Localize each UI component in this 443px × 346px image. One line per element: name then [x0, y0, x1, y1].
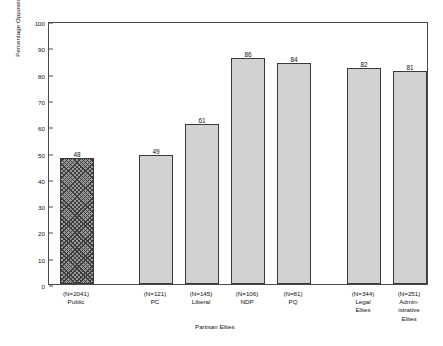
sample-size-label: (N=121) [144, 290, 167, 298]
y-axis-tick-mark [49, 75, 53, 76]
bar-pc [139, 155, 173, 284]
y-axis-tick-label: 40 [38, 177, 49, 184]
category-label: PC [144, 298, 167, 306]
y-axis-tick-mark [49, 49, 53, 50]
x-axis-caption: Partisan Elites [195, 323, 235, 330]
sample-size-label: (N=344) [352, 290, 375, 298]
bar-value-label: 86 [244, 51, 251, 58]
y-axis-tick-mark [49, 259, 53, 260]
y-axis-tick-label: 80 [38, 72, 49, 79]
x-axis-group-public: (N=2041)Public [63, 290, 89, 306]
y-axis-tick-label: 60 [38, 125, 49, 132]
y-axis-tick-mark [49, 154, 53, 155]
y-axis-tick-label: 20 [38, 230, 49, 237]
x-axis-group-legal-elites: (N=344)LegalElites [352, 290, 375, 315]
category-label: Admin- [398, 298, 421, 306]
plot-area: 010203040506070809010048496186848281 [48, 22, 428, 285]
bar-value-label: 81 [406, 64, 413, 71]
x-axis-group-pc: (N=121)PC [144, 290, 167, 306]
x-axis-group-liberal: (N=145)Liberal [190, 290, 213, 306]
y-axis-tick-label: 30 [38, 204, 49, 211]
y-axis-tick-mark [49, 233, 53, 234]
sample-size-label: (N=145) [190, 290, 213, 298]
bar-liberal [185, 124, 219, 284]
y-axis-tick-label: 10 [38, 256, 49, 263]
y-axis-tick-mark [49, 128, 53, 129]
bar-ndp [231, 58, 265, 284]
y-axis-tick-label: 100 [35, 20, 49, 27]
x-axis-group-pq: (N=81)PQ [283, 290, 302, 306]
bar-value-label: 84 [290, 56, 297, 63]
bar-value-label: 49 [152, 148, 159, 155]
y-axis-tick-mark [49, 23, 53, 24]
y-axis-tick-label: 50 [38, 151, 49, 158]
y-axis-title: Percentage Opposed to Censorship [14, 0, 21, 92]
bar-value-label: 61 [198, 117, 205, 124]
x-axis-group-ndp: (N=106)NDP [236, 290, 259, 306]
bar-chart: Percentage Opposed to Censorship 0102030… [0, 0, 443, 346]
sample-size-label: (N=81) [283, 290, 302, 298]
y-axis-tick-mark [49, 180, 53, 181]
category-label: Liberal [190, 298, 213, 306]
bar-value-label: 82 [360, 61, 367, 68]
x-axis-group-administrative-elites: (N=251)Admin-istrativeElites [398, 290, 421, 323]
bar-public [60, 158, 94, 284]
y-axis-tick-mark [49, 207, 53, 208]
y-axis-tick-label: 90 [38, 46, 49, 53]
category-label: PQ [283, 298, 302, 306]
sample-size-label: (N=2041) [63, 290, 89, 298]
bar-administrative-elites [393, 71, 427, 284]
category-label: istrative [398, 306, 421, 314]
y-axis-tick-label: 0 [42, 283, 49, 290]
bar-pq [277, 63, 311, 284]
y-axis-tick-mark [49, 286, 53, 287]
y-axis-tick-mark [49, 101, 53, 102]
category-label: Elites [398, 315, 421, 323]
bar-legal-elites [347, 68, 381, 284]
category-label: Legal [352, 298, 375, 306]
category-label: Public [63, 298, 89, 306]
sample-size-label: (N=106) [236, 290, 259, 298]
category-label: Elites [352, 306, 375, 314]
category-label: NDP [236, 298, 259, 306]
y-axis-tick-label: 70 [38, 98, 49, 105]
bar-value-label: 48 [73, 151, 80, 158]
sample-size-label: (N=251) [398, 290, 421, 298]
